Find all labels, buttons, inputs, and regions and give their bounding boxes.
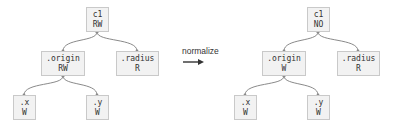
normalize-label: normalize (182, 46, 219, 56)
edge-origin-x-r (245, 76, 284, 95)
node-mode: W (22, 108, 27, 118)
node-name: .y (314, 98, 324, 108)
node-mode: W (316, 108, 321, 118)
node-name: c1 (314, 10, 324, 20)
edge-c1-radius-r (318, 32, 358, 51)
node-name: .x (241, 98, 251, 108)
edge-c1-radius (97, 32, 137, 51)
node-mode: W (282, 64, 287, 74)
edge-c1-origin-r (284, 32, 318, 51)
node-name: .x (20, 98, 30, 108)
node-mode: W (95, 108, 100, 118)
left-node-x: .x W (13, 95, 36, 120)
right-node-y: .y W (307, 95, 330, 120)
edge-origin-y-r (284, 76, 318, 95)
node-mode: RW (58, 64, 68, 74)
left-node-origin: .origin RW (41, 51, 85, 76)
right-node-x: .x W (234, 95, 257, 120)
node-mode: R (135, 64, 140, 74)
edge-origin-y (63, 76, 97, 95)
right-node-radius: .radius R (337, 51, 380, 76)
node-mode: W (243, 108, 248, 118)
left-node-y: .y W (86, 95, 109, 120)
node-name: .origin (267, 54, 301, 64)
node-name: .radius (342, 54, 376, 64)
edge-c1-origin (63, 32, 97, 51)
node-name: .origin (46, 54, 80, 64)
arrow-right-icon (183, 59, 204, 65)
right-node-origin: .origin W (262, 51, 306, 76)
node-name: c1 (93, 10, 103, 20)
node-name: .y (93, 98, 103, 108)
node-mode: NO (314, 20, 324, 30)
left-node-c1: c1 RW (86, 7, 109, 32)
node-mode: RW (93, 20, 103, 30)
right-node-c1: c1 NO (307, 7, 330, 32)
node-mode: R (356, 64, 361, 74)
left-node-radius: .radius R (116, 51, 159, 76)
edge-origin-x (24, 76, 63, 95)
node-name: .radius (121, 54, 155, 64)
